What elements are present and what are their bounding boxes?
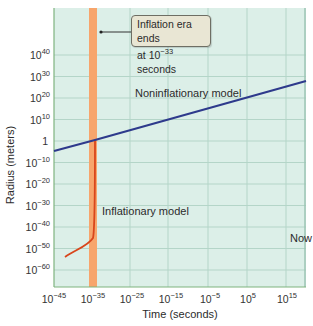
noninflationary-model-label: Noninflationary model	[135, 87, 241, 99]
svg-text:1040: 1040	[30, 47, 50, 61]
inflation-era-callout: Inflation era ends at 10−33 seconds	[131, 15, 211, 47]
callout-line-2: at 10−33 seconds	[137, 45, 210, 76]
now-label: Now	[290, 232, 312, 244]
svg-text:10−30: 10−30	[26, 198, 50, 212]
svg-text:1015: 1015	[277, 291, 297, 305]
svg-text:1030: 1030	[30, 69, 50, 83]
callout-line-1: Inflation era ends	[137, 17, 210, 45]
svg-text:10−35: 10−35	[81, 291, 105, 305]
y-tick-labels: 1040 1030 1020 1010 1 10−10 10−20 10−30 …	[26, 47, 50, 276]
svg-text:10−15: 10−15	[159, 291, 183, 305]
y-axis-title: Radius (meters)	[4, 126, 16, 204]
svg-text:10−50: 10−50	[26, 241, 50, 255]
svg-text:105: 105	[240, 291, 256, 305]
x-axis-title: Time (seconds)	[142, 308, 217, 320]
svg-text:10−40: 10−40	[26, 219, 50, 233]
svg-text:1: 1	[42, 135, 48, 147]
svg-text:10−25: 10−25	[120, 291, 144, 305]
svg-text:10−45: 10−45	[42, 291, 66, 305]
svg-text:10−5: 10−5	[200, 291, 220, 305]
svg-text:1010: 1010	[30, 112, 50, 126]
svg-text:1020: 1020	[30, 90, 50, 104]
svg-text:10−60: 10−60	[26, 262, 50, 276]
svg-text:10−10: 10−10	[26, 155, 50, 169]
callout-dot	[99, 30, 102, 33]
svg-text:10−20: 10−20	[26, 176, 50, 190]
x-tick-labels: 10−45 10−35 10−25 10−15 10−5 105 1015	[42, 291, 297, 305]
inflationary-model-label: Inflationary model	[102, 205, 189, 217]
